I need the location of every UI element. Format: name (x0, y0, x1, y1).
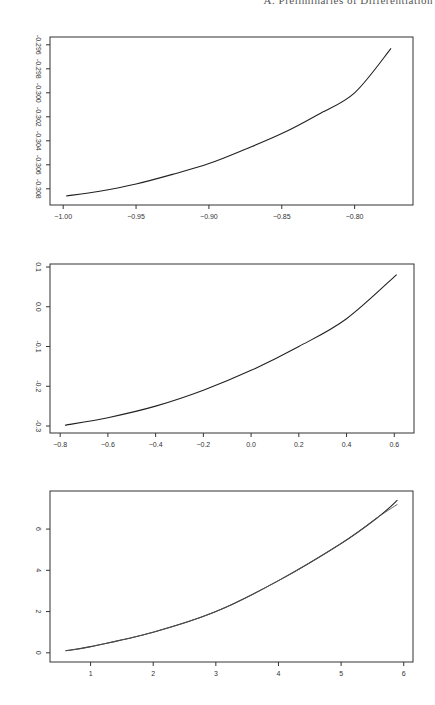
x-tick-label: 3 (214, 670, 218, 677)
y-tick-label: 6 (35, 527, 42, 531)
y-tick-label: 4 (35, 568, 42, 572)
x-tick-label: 2 (151, 670, 155, 677)
y-tick-label: 2 (35, 610, 42, 614)
x-tick-label: 4 (277, 670, 281, 677)
y-tick-label: 0 (35, 651, 42, 655)
x-tick-label: 6 (402, 670, 406, 677)
plot-frame (50, 491, 413, 662)
series-line-curve-a (66, 500, 398, 651)
chart-3: 1234560246 (0, 0, 435, 705)
x-tick-label: 1 (89, 670, 93, 677)
x-tick-label: 5 (339, 670, 343, 677)
series-line-curve-b (66, 504, 398, 650)
